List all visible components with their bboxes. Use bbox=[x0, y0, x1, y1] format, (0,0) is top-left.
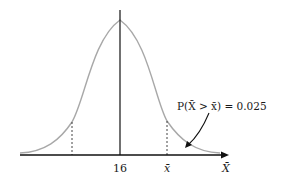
normal-distribution-figure: 16 x̄ X̄ P(X̄ > x̄) = 0.025 bbox=[0, 0, 283, 181]
critical-tick-label: x̄ bbox=[164, 162, 171, 175]
x-axis-arrow-icon bbox=[221, 152, 229, 159]
probability-annotation: P(X̄ > x̄) = 0.025 bbox=[177, 100, 267, 112]
annotation-arrow bbox=[188, 113, 209, 145]
axis-label: X̄ bbox=[221, 162, 231, 175]
mean-tick-label: 16 bbox=[113, 162, 127, 175]
